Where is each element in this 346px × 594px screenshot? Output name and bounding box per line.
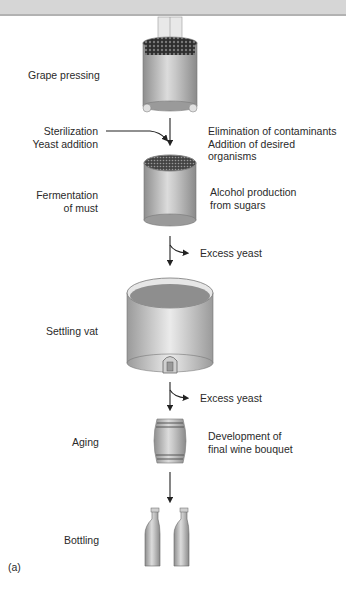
step-label-bottling: Bottling [64,534,99,547]
step-label-settling-vat: Settling vat [46,325,98,338]
input-label-sterilization: Sterilization Yeast addition [20,125,98,150]
output-label-excess-yeast-2: Excess yeast [200,392,262,405]
wine-bottles-icon [145,508,189,566]
step-label-fermentation: Fermentation of must [20,189,98,214]
step-note-fermentation: Alcohol production from sugars [210,186,296,211]
step-label-grape-pressing: Grape pressing [28,69,100,82]
step-note-aging: Development of final wine bouquet [208,430,293,455]
winemaking-diagram [0,0,346,594]
input-note-sterilization: Elimination of contaminants Addition of … [208,125,346,163]
fermentation-tank-icon [144,155,196,226]
output-label-excess-yeast-1: Excess yeast [200,247,262,260]
step-label-aging: Aging [72,436,99,449]
figure-label: (a) [8,561,21,574]
barrel-icon [154,419,186,463]
settling-vat-icon [127,278,213,373]
grape-press-icon [143,17,197,112]
